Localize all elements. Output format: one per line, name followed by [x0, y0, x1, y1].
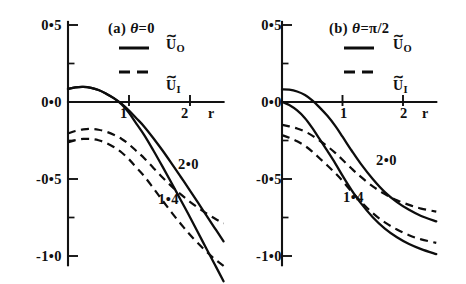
panel-b-ytick-0.5: 0•5	[226, 18, 282, 33]
panel-a-xtick-1: 1	[120, 106, 128, 121]
panel-a-legend-sub-i: I	[177, 84, 182, 95]
chart-panel-a: 0•5 0•0 -0•5 -1•0 1 2 r (a) θ=0 ∼UO ∼UI …	[0, 0, 233, 284]
panel-b-annotation-2.0: 2•0	[376, 153, 397, 168]
panel-b-ytick-0.0: 0•0	[226, 95, 282, 110]
panel-a-ytick-0.0: 0•0	[6, 95, 62, 110]
panel-b-legend-sub-o: O	[404, 43, 413, 54]
panel-a-theta-symbol: θ	[130, 19, 138, 36]
panel-a-theta-value: =0	[139, 20, 155, 36]
panel-a-ytick-0.5: 0•5	[6, 18, 62, 33]
panel-b-legend-solid-label: ∼UO	[393, 38, 466, 55]
panel-b-xtick-2: 2	[400, 106, 408, 121]
panel-a-legend-dashed-swatch	[118, 68, 150, 76]
panel-b-tilde-o: ∼	[393, 29, 404, 42]
panel-b-title: (b) θ=π/2	[329, 20, 390, 36]
panel-a-tilde-i: ∼	[166, 70, 177, 83]
panel-b-legend-dashed-label: ∼UI	[393, 79, 466, 96]
panel-b-title-prefix: (b)	[329, 20, 348, 36]
chart-panel-b: 0•5 0•0 -0•5 -1•0 1 2 r (b) θ=π/2 ∼UO ∼U…	[233, 0, 466, 284]
panel-a-annotation-2.0: 2•0	[178, 157, 199, 172]
figure-container: 0•5 0•0 -0•5 -1•0 1 2 r (a) θ=0 ∼UO ∼UI …	[0, 0, 466, 284]
panel-a-xtick-2: 2	[181, 106, 189, 121]
panel-a-ytick-neg1.0: -1•0	[2, 249, 62, 264]
panel-b-legend-solid-swatch	[343, 44, 375, 52]
panel-b-ytick-neg0.5: -0•5	[222, 172, 282, 187]
panel-b-tilde-i: ∼	[393, 70, 404, 83]
panel-a-legend-solid-swatch	[118, 44, 150, 52]
panel-b-ytick-neg1.0: -1•0	[222, 249, 282, 264]
panel-a-annotation-1.4: 1•4	[158, 192, 179, 207]
panel-b-legend-dashed-swatch	[343, 68, 375, 76]
panel-a-tilde-o: ∼	[166, 29, 177, 42]
panel-a-title-prefix: (a)	[108, 20, 126, 36]
panel-b-xtick-1: 1	[340, 106, 348, 121]
panel-a-title: (a) θ=0	[108, 20, 155, 36]
panel-a-ytick-neg0.5: -0•5	[2, 172, 62, 187]
panel-a-x-axis-label: r	[208, 107, 215, 121]
panel-b-legend-sub-i: I	[404, 84, 409, 95]
panel-b-annotation-1.4: 1•4	[343, 190, 364, 205]
panel-b-x-axis-label: r	[422, 107, 429, 121]
panel-a-legend-sub-o: O	[177, 43, 186, 54]
panel-b-theta-value: =π/2	[360, 20, 389, 36]
